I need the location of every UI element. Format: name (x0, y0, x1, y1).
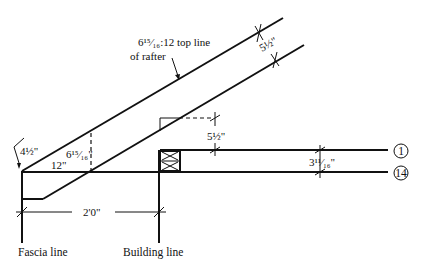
plumb-height-label: 6¹⁵⁄₁₆" (66, 148, 93, 160)
marker-1: 1 (394, 144, 408, 158)
rafter-diagram: 1 14 6¹⁵⁄₁₆:12 top line of rafter 5½" 6¹… (0, 0, 429, 269)
plate-rise-label: 5½" (207, 130, 225, 142)
heel-cut-label: 4½" (20, 145, 38, 157)
fascia-line-label: Fascia line (18, 246, 68, 258)
building-line-label: Building line (123, 246, 183, 259)
pitch-note-line1: 6¹⁵⁄₁₆:12 top line (138, 36, 210, 48)
top-plate-block (160, 151, 180, 171)
run-label: 12" (51, 159, 67, 171)
overhang-label: 2'0" (83, 206, 100, 218)
marker-14: 14 (394, 166, 408, 180)
tick (273, 52, 277, 68)
svg-text:14: 14 (395, 167, 407, 179)
svg-text:1: 1 (398, 145, 404, 157)
pitch-note-line2: of rafter (130, 50, 166, 62)
pitch-note-leader (172, 58, 178, 76)
rafter-bottom-line (43, 45, 304, 199)
heel-cut-arrow (17, 163, 21, 169)
rafter-depth-label: 5½" (257, 34, 279, 54)
line-offset-label: 3¹¹⁄₁₆" (309, 156, 335, 168)
